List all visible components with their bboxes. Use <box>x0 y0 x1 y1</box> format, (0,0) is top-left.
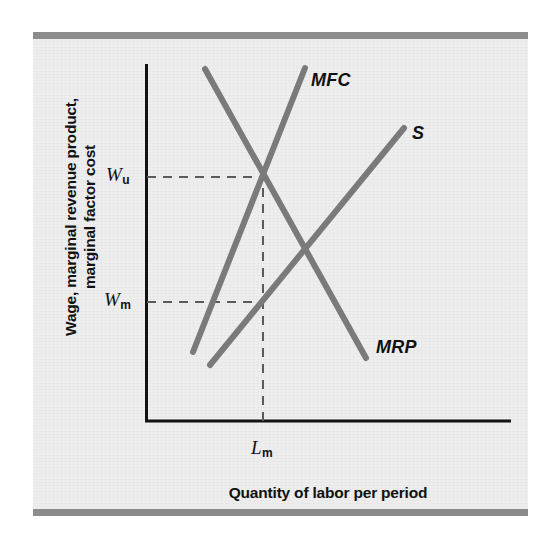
curve-label-mfc: MFC <box>311 70 351 91</box>
x-tick-label-labor-quantity: Lm <box>251 437 272 459</box>
y-tick-symbol-wu: W <box>106 164 122 185</box>
x-tick-subscript-lm: m <box>262 446 273 460</box>
mfc-curve <box>193 68 305 352</box>
y-tick-label-union-wage: Wu <box>106 164 129 186</box>
y-axis-label-line2: marginal factor cost <box>80 62 99 372</box>
y-tick-symbol-wm: W <box>104 289 120 310</box>
y-tick-subscript-wm: m <box>120 298 131 312</box>
y-axis-label: Wage, marginal revenue product, marginal… <box>61 62 99 372</box>
supply-curve <box>210 128 404 365</box>
x-axis-label: Quantity of labor per period <box>146 484 510 502</box>
curve-label-supply: S <box>412 123 424 144</box>
curve-label-mrp: MRP <box>376 337 417 358</box>
figure-root: Wage, marginal revenue product, marginal… <box>0 0 559 547</box>
y-axis-label-line1: Wage, marginal revenue product, <box>61 62 80 372</box>
y-tick-label-monopsony-wage: Wm <box>104 289 131 311</box>
y-tick-subscript-wu: u <box>122 173 129 187</box>
x-tick-symbol-lm: L <box>251 437 262 458</box>
